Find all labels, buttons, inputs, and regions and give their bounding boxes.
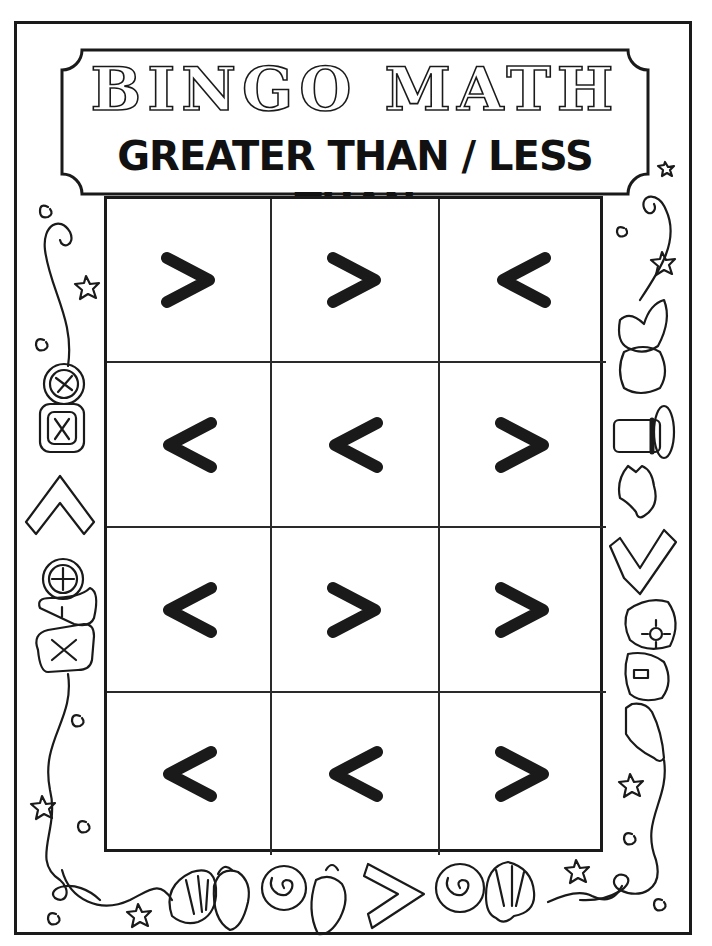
button-plus-icon <box>43 559 83 599</box>
less-than-icon <box>159 580 219 640</box>
bingo-cell[interactable]: < <box>107 363 272 528</box>
greater-than-icon <box>325 580 385 640</box>
bingo-cell[interactable]: < <box>440 199 606 363</box>
bingo-cell[interactable]: > <box>440 693 606 855</box>
spiral-icon <box>48 913 60 924</box>
greater-than-icon <box>325 250 385 310</box>
top-hat-icon <box>614 406 674 458</box>
bingo-cell[interactable]: < <box>107 693 272 855</box>
conch-shell-icon <box>311 865 345 934</box>
hat-icon <box>626 704 664 761</box>
less-than-icon <box>325 744 385 804</box>
spiral-icon <box>654 899 666 910</box>
greater-than-icon <box>493 744 553 804</box>
scallop-shell-icon <box>486 862 534 922</box>
spiral-icon <box>78 821 90 832</box>
scallop-shell-icon <box>170 870 217 923</box>
less-than-icon <box>325 415 385 475</box>
flower-hat-icon <box>625 600 675 649</box>
greater-than-icon <box>493 415 553 475</box>
less-than-outline-icon <box>610 530 676 594</box>
spiral-icon <box>72 715 84 726</box>
button-x-icon <box>36 624 94 672</box>
bingo-cell[interactable]: < <box>272 693 440 855</box>
bingo-cell[interactable]: > <box>272 199 440 363</box>
less-than-icon <box>493 250 553 310</box>
snail-shell-icon <box>436 864 484 912</box>
hat-icon <box>620 347 665 393</box>
greater-than-icon <box>493 580 553 640</box>
conch-shell-icon <box>214 867 249 930</box>
star-icon <box>75 276 99 299</box>
star-icon <box>127 904 151 927</box>
bingo-grid: > > < < < > < > > < < > <box>104 196 603 852</box>
bingo-cell[interactable]: > <box>440 363 606 528</box>
less-than-icon <box>159 415 219 475</box>
spiral-icon <box>40 206 52 218</box>
less-than-icon <box>159 744 219 804</box>
star-icon <box>619 774 643 797</box>
spiral-icon <box>624 833 636 844</box>
star-icon <box>565 860 589 883</box>
vine-left-top <box>45 224 72 366</box>
spiral-icon <box>36 339 48 350</box>
worksheet-title: BINGO MATH <box>60 54 650 124</box>
bingo-cell[interactable]: < <box>272 363 440 528</box>
greater-than-outline-icon <box>364 864 424 928</box>
star-icon <box>658 162 674 176</box>
greater-than-icon <box>159 250 219 310</box>
button-x-icon <box>40 404 84 452</box>
hat-icon <box>619 300 667 352</box>
cowboy-hat-icon <box>619 466 656 517</box>
bingo-cell[interactable]: < <box>107 528 272 693</box>
caret-up-icon <box>26 476 94 534</box>
bingo-cell[interactable]: > <box>272 528 440 693</box>
bingo-cell[interactable]: > <box>440 528 606 693</box>
snail-shell-icon <box>262 866 306 910</box>
hat-icon <box>625 653 668 700</box>
heart-button-icon <box>39 588 96 625</box>
bingo-cell[interactable]: > <box>107 199 272 363</box>
vine-left-bottom <box>46 674 100 900</box>
button-plus-icon <box>44 364 84 404</box>
